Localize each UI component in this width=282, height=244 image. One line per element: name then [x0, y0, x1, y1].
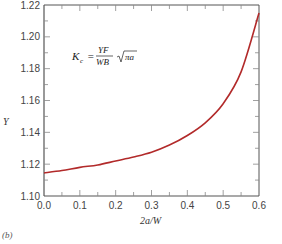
- x-tick-label: 0.0: [37, 200, 51, 211]
- x-tick-label: 0.5: [216, 200, 230, 211]
- panel-label: (b): [2, 230, 13, 240]
- y-tick-label: 1.12: [21, 159, 41, 170]
- x-tick-label: 0.4: [180, 200, 194, 211]
- x-tick-label: 0.6: [252, 200, 266, 211]
- formula-lhs: K: [71, 50, 80, 62]
- x-tick-label: 0.3: [145, 200, 159, 211]
- formula-numerator: YF: [98, 45, 109, 55]
- y-tick-label: 1.18: [21, 63, 41, 74]
- y-tick-label: 1.16: [21, 95, 41, 106]
- formula-lhs-subscript: c: [80, 57, 84, 65]
- tick-labels: 0.00.10.20.30.40.50.61.101.121.141.161.1…: [21, 0, 267, 211]
- line-chart: 0.00.10.20.30.40.50.61.101.121.141.161.1…: [0, 0, 282, 244]
- formula-denominator: WB: [96, 57, 109, 67]
- formula-annotation: K c = YF WB πa: [71, 45, 137, 67]
- data-curve: [44, 13, 259, 173]
- y-tick-label: 1.22: [21, 0, 41, 11]
- y-axis-title: Y: [3, 116, 10, 127]
- y-tick-label: 1.10: [21, 191, 41, 202]
- formula-equals: =: [87, 50, 94, 62]
- formula-radicand: πa: [125, 52, 135, 62]
- x-tick-label: 0.1: [73, 200, 87, 211]
- y-tick-label: 1.20: [21, 31, 41, 42]
- x-axis-title: 2a/W: [140, 215, 163, 226]
- x-tick-label: 0.2: [109, 200, 123, 211]
- y-tick-label: 1.14: [21, 127, 41, 138]
